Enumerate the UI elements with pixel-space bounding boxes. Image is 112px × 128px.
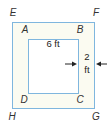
dimension-arrows bbox=[0, 0, 112, 128]
arrow-right-icon bbox=[65, 62, 77, 67]
frame-diagram: E F G H A B C D 6 ft 2 ft bbox=[0, 0, 112, 128]
arrow-left-icon bbox=[96, 62, 107, 67]
